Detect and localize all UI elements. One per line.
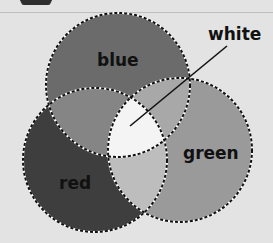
label-green: green [183, 143, 239, 163]
label-white: white [208, 24, 261, 44]
label-blue: blue [97, 50, 139, 70]
venn-diagram: blue red green white [0, 0, 273, 243]
label-red: red [59, 173, 91, 193]
